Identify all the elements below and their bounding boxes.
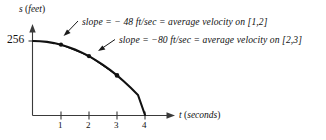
x-tick-label-3: 3 <box>114 120 119 130</box>
x-axis-unit: seconds <box>187 110 217 120</box>
data-point-t2 <box>87 54 91 58</box>
secant-chord-1-2 <box>61 45 89 57</box>
y-axis-unit-close: ) <box>42 4 45 14</box>
data-point-t1 <box>59 43 63 47</box>
x-tick-label-2: 2 <box>86 120 91 130</box>
x-axis-title: t (seconds) <box>179 110 220 120</box>
x-tick-label-1: 1 <box>58 120 63 130</box>
data-point-t3 <box>115 73 120 78</box>
annotation-slope-1-2: slope = − 48 ft/sec = average velocity o… <box>82 16 268 27</box>
y-tick-label-256: 256 <box>7 33 24 45</box>
annotation-slope-2-3: slope = −80 ft/sec = average velocity on… <box>119 34 302 45</box>
position-curve <box>33 41 145 115</box>
x-axis-arrowhead <box>167 112 176 118</box>
leader-arrowhead-slope-1-2 <box>64 30 71 36</box>
y-axis-arrowhead <box>29 24 35 33</box>
y-axis-title: s (feet) <box>19 4 45 14</box>
position-vs-time-figure: s (feet) 256 1 2 3 4 t (seconds) slope =… <box>0 0 326 140</box>
y-axis-unit: feet <box>28 4 42 14</box>
x-tick-label-4: 4 <box>142 120 147 130</box>
secant-chord-2-3 <box>89 56 117 75</box>
x-axis-unit-close: ) <box>217 110 220 120</box>
